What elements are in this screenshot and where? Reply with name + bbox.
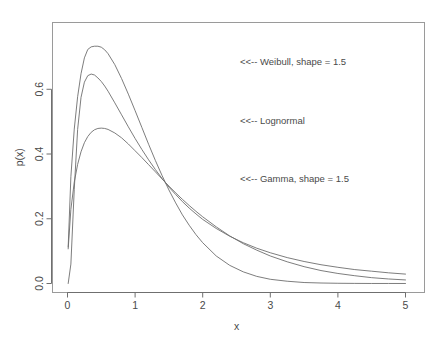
axis-titles: xp(x) (13, 148, 240, 332)
x-tick-label: 2 (200, 299, 206, 311)
y-tick-label: 0.2 (33, 211, 45, 226)
y-axis-title: p(x) (13, 148, 25, 166)
x-tick-label: 1 (132, 299, 138, 311)
density-comparison-chart: 012345 0.00.20.40.6 <<-- Weibull, shape … (0, 0, 446, 341)
chart-canvas: 012345 0.00.20.40.6 <<-- Weibull, shape … (0, 0, 446, 341)
density-curve-2 (68, 74, 405, 283)
y-tick-label: 0.6 (33, 82, 45, 97)
curve-annotation-3: <<-- Gamma, shape = 1.5 (240, 173, 349, 184)
plot-frame-group (53, 23, 425, 293)
x-tick-label: 0 (65, 299, 71, 311)
y-tick-label: 0.4 (33, 147, 45, 162)
x-axis-title: x (234, 320, 240, 332)
x-tick-label: 5 (403, 299, 409, 311)
y-tick-label: 0.0 (33, 276, 45, 291)
density-curves (68, 46, 405, 283)
x-tick-label: 3 (267, 299, 273, 311)
x-tick-label: 4 (335, 299, 341, 311)
curve-annotations: <<-- Weibull, shape = 1.5<<-- Lognormal<… (240, 56, 349, 184)
y-axis: 0.00.20.40.6 (33, 82, 52, 291)
density-curve-1 (68, 46, 405, 283)
plot-frame (53, 23, 425, 293)
x-axis: 012345 (65, 293, 409, 312)
curve-annotation-2: <<-- Lognormal (240, 115, 305, 126)
curve-annotation-1: <<-- Weibull, shape = 1.5 (240, 56, 346, 67)
density-curve-3 (68, 128, 405, 280)
